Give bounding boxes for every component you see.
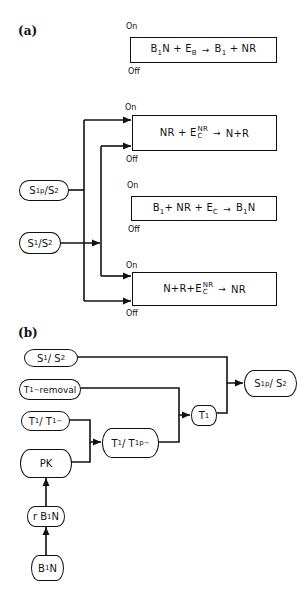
node-t1-t1tilde: T1 / T1~ [21, 411, 70, 431]
reaction-1-lhs: B1N + EB [151, 43, 197, 57]
reaction-3-off-label: Off [128, 225, 140, 234]
reaction-4-off-label: Off [126, 309, 138, 318]
reaction-1-off-label: Off [128, 67, 140, 76]
arrow-icon: → [218, 284, 226, 294]
arrow-icon: → [223, 204, 231, 214]
node-t1-t1p-tilde: T1/ T1p~ [102, 428, 159, 458]
node-s1-s2-input: S1/S2 [19, 232, 61, 254]
node-t1: T1 [191, 405, 217, 426]
reaction-2-off-label: Off [126, 155, 138, 164]
node-s1-s2: S1/ S2 [24, 349, 78, 367]
reaction-4-rhs: NR [231, 284, 246, 295]
reaction-2-lhs: NR + ENRC [160, 126, 208, 140]
node-rb1n: r B1N [27, 506, 65, 527]
node-b1n: B1N [31, 555, 64, 581]
reaction-4-box: N+R+ENRC → NR [132, 272, 277, 306]
panel-a-label: (a) [18, 24, 37, 38]
reaction-4-on-label: On [126, 261, 137, 270]
reaction-1-rhs: B1 + NR [215, 43, 257, 57]
arrow-icon: → [213, 128, 221, 138]
node-s1p-s2-output: S1p / S2 [244, 370, 297, 397]
node-pk: PK [20, 449, 72, 478]
panel-b-label: (b) [18, 326, 38, 340]
node-s1p-s2-input: S1p/S2 [19, 180, 69, 201]
reaction-2-rhs: N+R [226, 128, 249, 139]
reaction-1-on-label: On [126, 22, 137, 31]
reaction-1-box: B1N + EB → B1 + NR [130, 37, 277, 63]
reaction-3-box: B1+ NR + EC → B1N [131, 196, 277, 221]
reaction-2-box: NR + ENRC → N+R [132, 115, 277, 151]
reaction-3-on-label: On [127, 181, 138, 190]
reaction-3-rhs: B1N [236, 202, 255, 216]
reaction-4-lhs: N+R+ENRC [163, 282, 213, 296]
arrow-icon: → [202, 45, 210, 55]
node-t1-removal: T1~removal [19, 379, 81, 400]
reaction-3-lhs: B1+ NR + EC [153, 202, 218, 216]
reaction-2-on-label: On [125, 103, 136, 112]
